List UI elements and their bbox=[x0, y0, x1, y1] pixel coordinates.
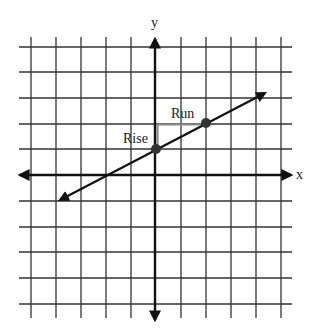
y-axis-label: y bbox=[151, 15, 158, 30]
rise-label: Rise bbox=[123, 131, 148, 146]
x-axis-label: x bbox=[296, 167, 303, 182]
coordinate-plane: x y Rise Run bbox=[0, 0, 316, 332]
run-label: Run bbox=[171, 106, 194, 121]
point-second bbox=[201, 118, 211, 128]
sloped-line bbox=[60, 93, 265, 200]
point-y-intercept bbox=[151, 144, 161, 154]
